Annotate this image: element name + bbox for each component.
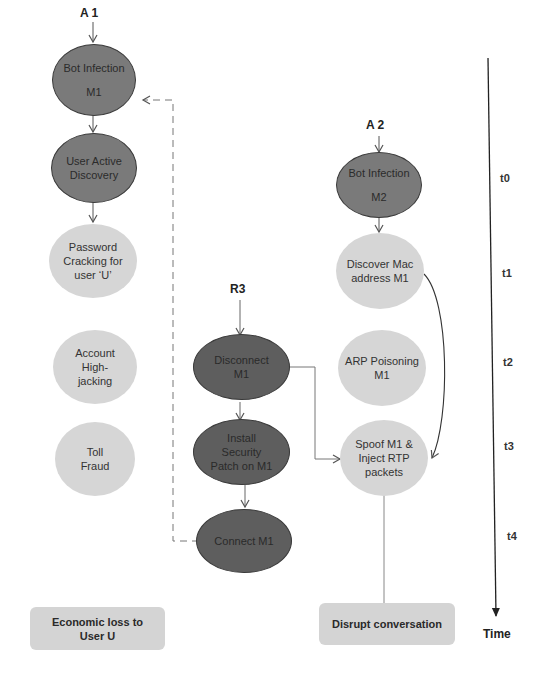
arrow-disconnect-to-spoof [290, 367, 340, 459]
node-text: Disconnect [214, 353, 268, 367]
node-bot-infection-m1: Bot InfectionM1 [52, 44, 136, 116]
node-text: Install [211, 431, 273, 445]
node-install-security-patch: InstallSecurityPatch on M1 [193, 419, 290, 485]
node-text: jacking [75, 374, 115, 388]
actor-a1-label: A 1 [80, 6, 98, 20]
node-bot-infection-m2: Bot InfectionM2 [336, 152, 422, 218]
time-tick-t1: t1 [502, 267, 512, 279]
outcome-text: User U [52, 629, 143, 643]
node-text: address M1 [347, 271, 414, 285]
outcome-text: Economic loss to [52, 615, 143, 629]
node-password-cracking: PasswordCracking foruser ‘U’ [49, 224, 137, 298]
time-axis-label: Time [483, 627, 511, 641]
node-text: Patch on M1 [211, 459, 273, 473]
node-spoof-inject: Spoof M1 &Inject RTPpackets [340, 420, 428, 496]
node-disconnect-m1: DisconnectM1 [193, 334, 290, 400]
node-text: M1 [63, 85, 124, 99]
time-tick-t4: t4 [507, 530, 517, 542]
node-arp-poisoning: ARP PoisoningM1 [338, 330, 426, 406]
node-text: Account [75, 346, 115, 360]
time-axis-arrow [488, 58, 496, 616]
node-discover-mac: Discover Macaddress M1 [336, 233, 424, 309]
node-connect-m1: Connect M1 [196, 509, 292, 573]
node-user-active-discovery: User ActiveDiscovery [51, 133, 137, 203]
time-tick-t2: t2 [503, 356, 513, 368]
node-text: user ‘U’ [63, 268, 122, 282]
node-account-highjacking: AccountHigh-jacking [53, 330, 137, 404]
node-text: Spoof M1 & [355, 437, 412, 451]
actor-r3-label: R3 [230, 282, 245, 296]
node-text: M1 [345, 368, 419, 382]
node-text: Security [211, 445, 273, 459]
attack-response-diagram: A 1 A 2 R3 Bot InfectionM1 User ActiveDi… [0, 0, 542, 685]
node-text: Discover Mac [347, 257, 414, 271]
node-toll-fraud: TollFraud [55, 422, 135, 496]
node-text: M1 [214, 367, 268, 381]
time-tick-t0: t0 [500, 172, 510, 184]
node-text: Toll [81, 445, 110, 459]
node-text: User Active [66, 154, 122, 168]
node-text: Discovery [66, 168, 122, 182]
node-text: packets [355, 465, 412, 479]
node-text: Inject RTP [355, 451, 412, 465]
node-text: M2 [348, 190, 409, 204]
outcome-economic-loss: Economic loss toUser U [30, 607, 165, 650]
node-text: Password [63, 240, 122, 254]
node-text: Bot Infection [63, 61, 124, 75]
node-text: High- [75, 360, 115, 374]
time-tick-t3: t3 [504, 440, 514, 452]
node-text: Fraud [81, 459, 110, 473]
node-text: ARP Poisoning [345, 354, 419, 368]
actor-a2-label: A 2 [366, 118, 384, 132]
outcome-disrupt-conversation: Disrupt conversation [319, 603, 455, 645]
curved-arrow-discover-to-spoof [424, 274, 445, 458]
node-text: Connect M1 [214, 534, 273, 548]
node-text: Bot Infection [348, 166, 409, 180]
node-text: Cracking for [63, 254, 122, 268]
